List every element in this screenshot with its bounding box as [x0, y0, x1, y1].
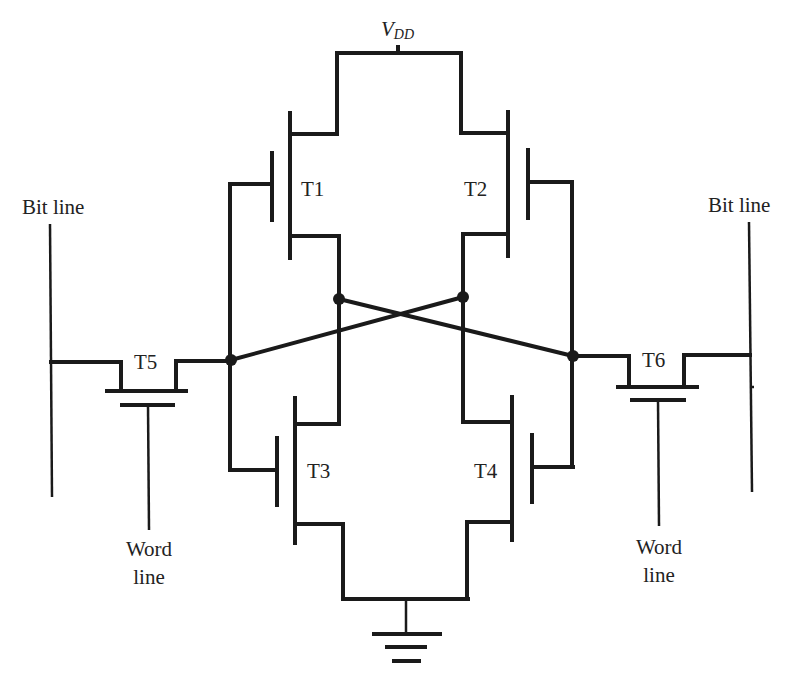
transistor-t4: [463, 397, 573, 599]
label-t2: T2: [464, 178, 487, 200]
node-dot-right: [567, 350, 579, 362]
vdd-main: V: [381, 17, 394, 41]
word-line-left-line2: line: [118, 566, 180, 588]
vdd-label: VDD: [381, 18, 414, 46]
word-line-right-line2: line: [628, 564, 690, 586]
transistor-t3: [232, 398, 343, 599]
vdd-rail: [337, 47, 461, 134]
bit-line-left-label: Bit line: [22, 196, 84, 218]
node-dot-center-left: [333, 293, 345, 305]
node-dot-center-right: [457, 291, 469, 303]
word-line-left-line1: Word: [118, 538, 180, 560]
bit-line-right-label: Bit line: [708, 194, 770, 216]
label-t3: T3: [307, 460, 330, 482]
sram-circuit-diagram: [0, 0, 801, 694]
node-dot-left: [225, 354, 237, 366]
cross-coupling-wires: [231, 297, 573, 360]
word-line-right-label: Word line: [628, 536, 690, 586]
transistor-t6: [573, 222, 754, 526]
label-t1: T1: [301, 178, 324, 200]
transistor-t5: [50, 224, 231, 530]
vdd-sub: DD: [394, 27, 414, 42]
word-line-left-label: Word line: [118, 538, 180, 588]
label-t4: T4: [474, 460, 497, 482]
label-t6: T6: [642, 349, 665, 371]
ground-symbol: [343, 599, 468, 661]
word-line-right-line1: Word: [628, 536, 690, 558]
transistor-t1: [230, 113, 339, 470]
label-t5: T5: [134, 351, 157, 373]
transistor-t2: [461, 112, 572, 466]
